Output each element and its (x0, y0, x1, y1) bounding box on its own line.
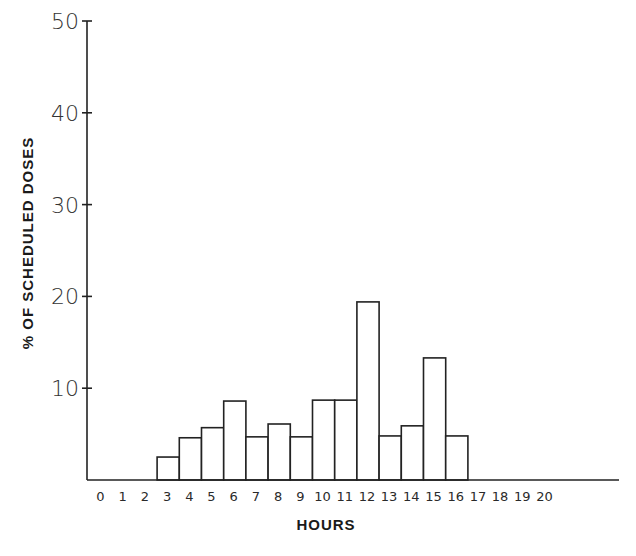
x-tick-label: 13 (381, 489, 398, 504)
y-tick-label: 40 (51, 101, 79, 126)
x-tick-label: 1 (119, 489, 127, 504)
histogram-bar (290, 437, 312, 480)
x-tick-label: 6 (230, 489, 238, 504)
y-tick-label: 50 (51, 9, 79, 34)
x-tick-label: 15 (425, 489, 442, 504)
x-tick-label: 19 (514, 489, 531, 504)
histogram-bar (179, 438, 201, 480)
x-tick-label: 9 (296, 489, 304, 504)
histogram-bar (379, 436, 401, 480)
histogram-chart: 1020304050 01234567891011121314151617181… (0, 0, 636, 556)
y-tick-label: 30 (51, 193, 79, 218)
x-tick-label: 18 (492, 489, 509, 504)
histogram-bar (446, 436, 468, 480)
x-tick-label: 7 (252, 489, 260, 504)
y-tick-label: 20 (51, 284, 79, 309)
x-axis: 01234567891011121314151617181920 (87, 480, 619, 504)
histogram-bar (357, 302, 379, 480)
y-axis: 1020304050 (51, 9, 92, 480)
x-tick-label: 14 (403, 489, 420, 504)
x-tick-label: 17 (470, 489, 487, 504)
x-tick-label: 11 (336, 489, 353, 504)
histogram-bar (246, 437, 268, 480)
x-tick-label: 3 (163, 489, 171, 504)
histogram-bar (401, 426, 423, 480)
x-tick-label: 20 (536, 489, 553, 504)
bars-group (157, 302, 468, 480)
x-tick-label: 16 (447, 489, 464, 504)
x-tick-label: 10 (314, 489, 331, 504)
histogram-bar (424, 358, 446, 480)
x-tick-label: 12 (359, 489, 376, 504)
histogram-bar (224, 401, 246, 480)
x-tick-label: 4 (185, 489, 193, 504)
histogram-bar (202, 428, 224, 480)
x-tick-label: 2 (141, 489, 149, 504)
histogram-bar (313, 400, 335, 480)
y-tick-label: 10 (51, 376, 79, 401)
histogram-bar (157, 457, 179, 480)
x-tick-label: 8 (274, 489, 282, 504)
y-axis-title: % OF SCHEDULED DOSES (19, 137, 36, 350)
histogram-bar (335, 400, 357, 480)
histogram-bar (268, 424, 290, 480)
x-tick-label: 5 (207, 489, 215, 504)
x-axis-title: HOURS (296, 516, 355, 533)
x-tick-label: 0 (96, 489, 104, 504)
